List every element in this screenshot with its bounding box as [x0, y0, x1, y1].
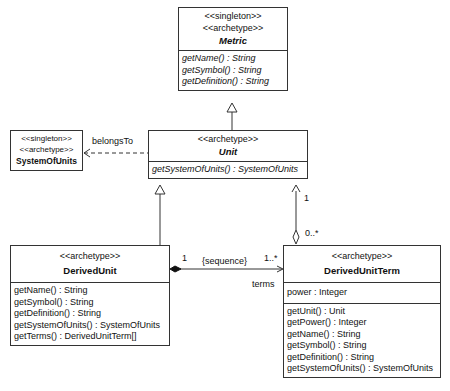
operation: getSymbol() : String — [14, 297, 166, 309]
stereotype: <<archetype>> — [286, 250, 438, 262]
class-name: DerivedUnit — [13, 265, 167, 277]
class-header: <<singleton>> <<archetype>> Metric — [179, 8, 287, 51]
stereotype: <<archetype>> — [13, 250, 167, 262]
class-name: SystemOfUnits — [13, 156, 80, 167]
stereotype: <<archetype>> — [13, 144, 80, 155]
navigability-arrowhead-icon — [292, 185, 300, 192]
operation: getSymbol() : String — [182, 65, 284, 77]
class-header: <<archetype>> DerivedUnit — [11, 246, 169, 283]
class-name: Unit — [151, 146, 305, 158]
operation: getUnit() : Unit — [287, 306, 437, 318]
multiplicity-unit: 1 — [304, 193, 309, 203]
stereotype: <<singleton>> — [181, 10, 285, 22]
class-header: <<archetype>> DerivedUnitTerm — [284, 246, 440, 283]
operation: getName() : String — [182, 53, 284, 65]
generalization-arrowhead-icon — [227, 103, 237, 112]
stereotype: <<singleton>> — [13, 133, 80, 144]
class-metric[interactable]: <<singleton>> <<archetype>> Metric getNa… — [178, 7, 288, 91]
stereotype: <<archetype>> — [181, 22, 285, 34]
class-header: <<singleton>> <<archetype>> SystemOfUnit… — [11, 131, 82, 170]
operations: getUnit() : Unit getPower() : Integer ge… — [284, 303, 440, 377]
operation: getSymbol() : String — [287, 340, 437, 352]
stereotype: <<archetype>> — [151, 133, 305, 145]
role-terms: terms — [252, 279, 275, 289]
aggregation-diamond-icon — [293, 230, 299, 244]
class-derived-unit[interactable]: <<archetype>> DerivedUnit getName() : St… — [10, 245, 170, 346]
multiplicity-term: 0..* — [305, 228, 319, 238]
label-belongs-to: belongsTo — [92, 136, 133, 146]
class-derived-unit-term[interactable]: <<archetype>> DerivedUnitTerm power : In… — [283, 245, 441, 378]
multiplicity-terms: 1..* — [264, 253, 278, 263]
class-unit[interactable]: <<archetype>> Unit getSystemOfUnits() : … — [148, 130, 308, 179]
attribute: power : Integer — [287, 287, 437, 299]
operation: getDefinition() : String — [14, 308, 166, 320]
attributes: power : Integer — [284, 283, 440, 303]
operation: getTerms() : DerivedUnitTerm[] — [14, 331, 166, 343]
class-name: DerivedUnitTerm — [286, 265, 438, 277]
class-name: Metric — [181, 35, 285, 47]
operation: getSystemOfUnits() : SystemOfUnits — [14, 320, 166, 332]
constraint-sequence: {sequence} — [202, 256, 247, 266]
operation: getDefinition() : String — [287, 352, 437, 364]
operation: getName() : String — [14, 285, 166, 297]
operations: getName() : String getSymbol() : String … — [179, 51, 287, 90]
class-system-of-units[interactable]: <<singleton>> <<archetype>> SystemOfUnit… — [10, 130, 83, 171]
operation: getDefinition() : String — [182, 76, 284, 88]
composition-diamond-icon — [170, 266, 181, 272]
generalization-arrowhead-icon — [155, 185, 165, 194]
class-header: <<archetype>> Unit — [149, 131, 307, 162]
multiplicity-derived-unit: 1 — [182, 253, 187, 263]
operation: getName() : String — [287, 329, 437, 341]
operation: getSystemOfUnits() : SystemOfUnits — [287, 363, 437, 375]
operations: getName() : String getSymbol() : String … — [11, 283, 169, 345]
operations: getSystemOfUnits() : SystemOfUnits — [149, 162, 307, 178]
operation: getSystemOfUnits() : SystemOfUnits — [152, 164, 304, 176]
operation: getPower() : Integer — [287, 317, 437, 329]
